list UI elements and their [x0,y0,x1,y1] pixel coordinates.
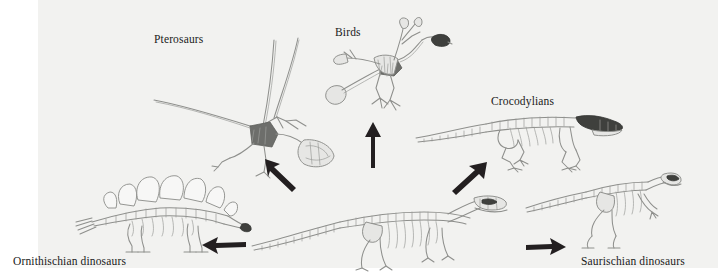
label-crocodylians: Crocodylians [491,95,554,107]
figure-canvas: Pterosaurs [0,0,718,279]
arrow-to-birds [364,122,382,168]
crocodylian-skeleton [414,108,624,174]
label-pterosaurs: Pterosaurs [154,33,203,45]
theropod-skeleton [524,168,682,248]
arrow-to-saurischians [526,238,566,256]
arrow-to-pterosaurs [262,156,302,196]
arrow-to-crocodylians [450,160,490,198]
label-ornithischian-dinosaurs: Ornithischian dinosaurs [13,255,126,267]
arrow-to-ornithischians [202,236,246,254]
label-birds: Birds [335,26,361,38]
label-saurischian-dinosaurs: Saurischian dinosaurs [581,255,685,267]
basal-archosaur-skeleton [248,188,508,272]
